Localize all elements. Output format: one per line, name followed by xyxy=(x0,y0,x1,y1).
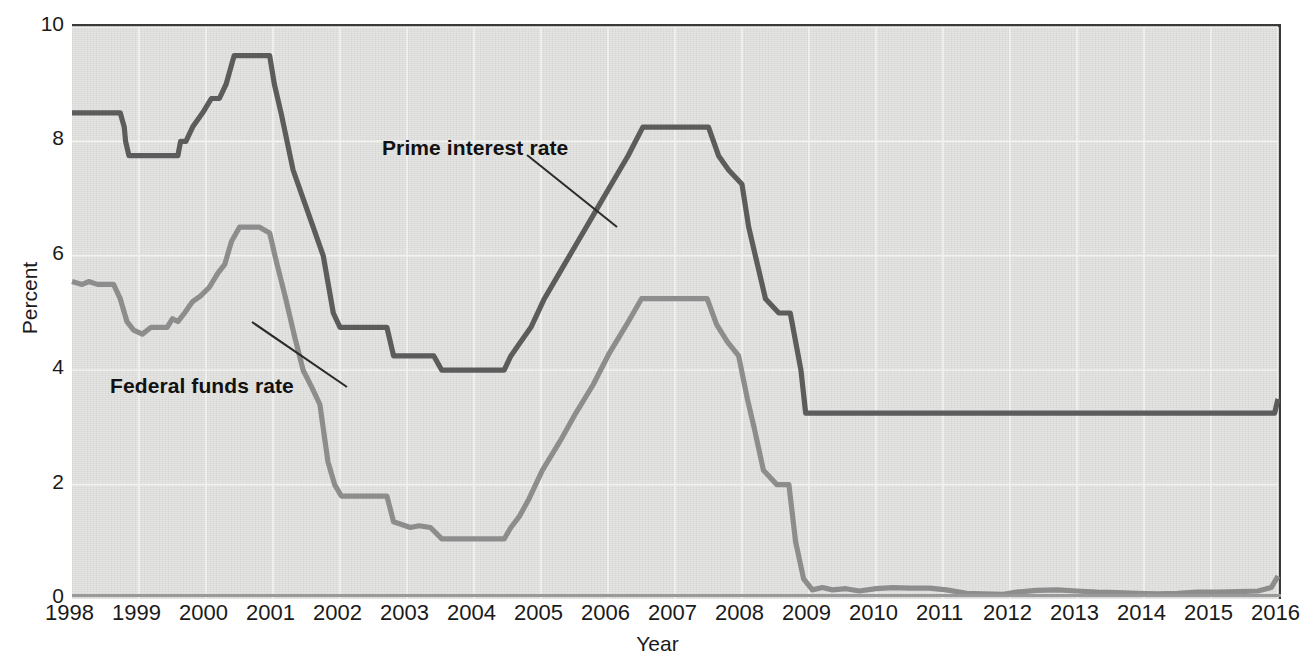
x-axis-tick-label: 2012 xyxy=(983,600,1032,626)
y-axis-tick-label: 2 xyxy=(6,471,64,492)
x-axis-tick-label: 1998 xyxy=(45,600,94,626)
x-axis-tick-label: 2014 xyxy=(1117,600,1166,626)
x-axis-label: Year xyxy=(0,632,1315,656)
y-axis-tick-label: 10 xyxy=(6,13,64,34)
x-axis-tick-label: 2010 xyxy=(849,600,898,626)
y-axis-tick-label: 8 xyxy=(6,127,64,148)
x-axis-tick-label: 2001 xyxy=(246,600,295,626)
x-axis-tick-label: 2002 xyxy=(313,600,362,626)
x-axis-tick-label: 2006 xyxy=(581,600,630,626)
x-axis-tick-label: 2004 xyxy=(447,600,496,626)
x-axis-tick-label: 1999 xyxy=(112,600,161,626)
prime-leader-line xyxy=(527,155,617,227)
plot-area xyxy=(72,24,1281,599)
y-axis-label: Percent xyxy=(18,238,42,358)
x-axis-tick-label: 2003 xyxy=(380,600,429,626)
x-axis-tick-label: 2008 xyxy=(715,600,764,626)
annotation-leaders xyxy=(72,27,1278,599)
x-axis-tick-label: 2009 xyxy=(782,600,831,626)
x-axis-baseline xyxy=(72,594,1281,597)
x-axis-tick-label: 2011 xyxy=(916,600,963,626)
federal-funds-rate-label: Federal funds rate xyxy=(110,374,294,398)
interest-rate-chart: Prime interest rate Federal funds rate 1… xyxy=(0,0,1315,668)
x-axis-tick-label: 2015 xyxy=(1184,600,1233,626)
x-axis-tick-label: 2007 xyxy=(648,600,697,626)
x-axis-tick-label: 2016 xyxy=(1251,600,1300,626)
x-axis-tick-label: 2005 xyxy=(514,600,563,626)
x-axis-tick-label: 2000 xyxy=(179,600,228,626)
y-axis-tick-label: 4 xyxy=(6,356,64,377)
prime-interest-rate-label: Prime interest rate xyxy=(382,136,568,160)
x-axis-tick-label: 2013 xyxy=(1050,600,1099,626)
